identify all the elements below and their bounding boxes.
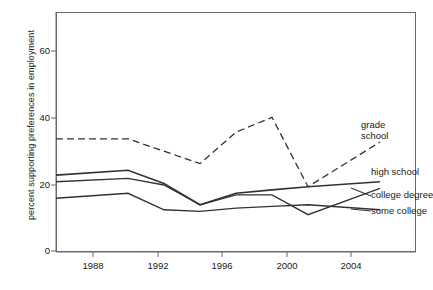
series-line-grade-school xyxy=(56,117,380,186)
series-label-grade-school: grade school xyxy=(361,120,388,141)
series-label-some-college: some college xyxy=(371,206,427,217)
series-label-high-school: high school xyxy=(371,167,419,178)
series-label-grade-school-line2: school xyxy=(361,130,388,141)
series-line-some-college xyxy=(56,193,380,211)
series-label-grade-school-line1: grade xyxy=(361,119,385,130)
x-axis xyxy=(56,252,416,257)
y-axis xyxy=(51,12,56,252)
series-label-college-degree: college degree xyxy=(371,190,433,201)
